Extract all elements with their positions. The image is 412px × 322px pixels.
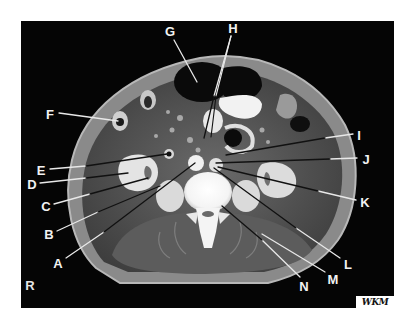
ct-image-panel: [21, 21, 394, 308]
label-c: C: [41, 200, 50, 213]
orientation-marker-right: R: [25, 279, 34, 292]
label-h: H: [228, 22, 237, 35]
ct-figure: A B C D E F G H I J K L M N R WKM: [0, 0, 412, 322]
author-credit: WKM: [356, 296, 394, 308]
label-l: L: [344, 258, 352, 271]
label-b: B: [44, 228, 53, 241]
label-a: A: [53, 257, 62, 270]
label-g: G: [165, 25, 175, 38]
label-m: M: [328, 273, 339, 286]
label-n: N: [299, 280, 308, 293]
label-i: I: [357, 129, 361, 142]
label-f: F: [46, 108, 54, 121]
label-d: D: [27, 178, 36, 191]
label-k: K: [360, 196, 369, 209]
label-j: J: [362, 153, 369, 166]
label-e: E: [37, 164, 46, 177]
ct-scan-image: [21, 21, 394, 308]
